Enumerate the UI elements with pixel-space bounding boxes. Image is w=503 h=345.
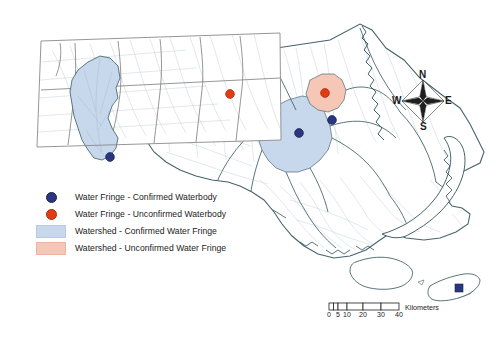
scalebar-tick-40: 40 (395, 311, 403, 319)
legend-item-unconfirmed-fringe[interactable]: Watershed - Unconfirmed Water Fringe (36, 240, 286, 256)
map-legend: Water Fringe - Confirmed Waterbody Water… (36, 189, 286, 257)
legend-key-confirmed-dot (36, 192, 66, 203)
map-figure: Water Fringe - Confirmed Waterbody Water… (0, 0, 503, 345)
scalebar-tick-10: 10 (343, 311, 351, 319)
compass-west-label: W (392, 96, 401, 106)
legend-key-confirmed-swatch (36, 225, 66, 238)
massachusetts-map-canvas[interactable] (0, 0, 503, 345)
marker-confirmed-nantucket[interactable] (455, 284, 463, 292)
marthas-vineyard (350, 257, 413, 289)
legend-label-confirmed-waterbody: Water Fringe - Confirmed Waterbody (66, 192, 217, 202)
scalebar-tick-20: 20 (359, 311, 367, 319)
nantucket (428, 274, 480, 301)
marker-unconfirmed-north-central[interactable] (226, 90, 235, 99)
legend-item-confirmed-waterbody[interactable]: Water Fringe - Confirmed Waterbody (36, 189, 286, 205)
islands (350, 257, 480, 301)
marker-unconfirmed-northeast[interactable] (321, 89, 330, 98)
scalebar-tick-30: 30 (377, 311, 385, 319)
legend-key-unconfirmed-swatch (36, 242, 66, 255)
compass-east-label: E (445, 96, 452, 106)
map-scalebar: Kilometers 0510203040 (329, 303, 449, 321)
legend-item-unconfirmed-waterbody[interactable]: Water Fringe - Unconfirmed Waterbody (36, 206, 286, 222)
marker-confirmed-inset-southwest[interactable] (106, 153, 115, 162)
confirmed-waterbody-dot-icon (46, 192, 57, 203)
legend-item-confirmed-fringe[interactable]: Watershed - Confirmed Water Fringe (36, 223, 286, 239)
scalebar-tick-labels: 0510203040 (329, 311, 407, 321)
compass-rose: N S W E (392, 70, 454, 132)
legend-label-unconfirmed-fringe: Watershed - Unconfirmed Water Fringe (66, 243, 226, 253)
unconfirmed-fringe-swatch-icon (36, 242, 66, 255)
compass-south-label: S (420, 122, 427, 132)
scalebar-units-label: Kilometers (405, 304, 439, 312)
compass-north-label: N (419, 70, 426, 80)
legend-label-unconfirmed-waterbody: Water Fringe - Unconfirmed Waterbody (66, 209, 226, 219)
inset-panel[interactable] (37, 33, 281, 160)
legend-label-confirmed-fringe: Watershed - Confirmed Water Fringe (66, 226, 217, 236)
unconfirmed-waterbody-dot-icon (46, 209, 57, 220)
scalebar-tick-0: 0 (327, 311, 331, 319)
marker-confirmed-east-central[interactable] (295, 129, 304, 138)
legend-key-unconfirmed-dot (36, 209, 66, 220)
marker-confirmed-east-coastal[interactable] (328, 116, 337, 125)
scalebar-tick-5: 5 (336, 311, 340, 319)
confirmed-fringe-swatch-icon (36, 225, 66, 238)
